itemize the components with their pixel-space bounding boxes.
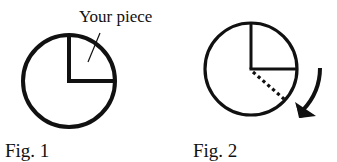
fig1-caption: Fig. 1 [5, 141, 49, 160]
clockwise-arrow-icon [303, 68, 320, 110]
fig2-dotted-radius [253, 72, 284, 99]
figure-2 [205, 23, 320, 118]
fig2-caption: Fig. 2 [193, 141, 237, 160]
diagram-canvas: Your piece Fig. 1 Fig. 2 [0, 0, 337, 162]
figure-1 [23, 33, 115, 127]
diagram-svg [0, 0, 337, 162]
your-piece-label: Your piece [79, 8, 152, 25]
